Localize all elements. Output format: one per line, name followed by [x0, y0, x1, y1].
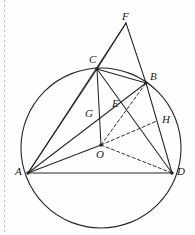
segment-CD [97, 69, 172, 173]
point-label-e: E [112, 98, 119, 109]
vertex-dot-c [95, 67, 98, 70]
point-label-f: F [122, 11, 129, 22]
vertex-dot-o [99, 143, 102, 146]
segment-AO [28, 145, 101, 173]
segment-CF [97, 23, 126, 69]
point-label-d: D [177, 166, 185, 177]
segment-CO [97, 69, 101, 145]
vertex-dot-b [144, 81, 147, 84]
point-label-c: C [89, 54, 96, 65]
vertex-dot-a [26, 171, 29, 174]
geometry-figure: FCBGEHOAD [0, 0, 195, 235]
segment-BF [126, 23, 146, 83]
segment-BD [146, 83, 172, 173]
point-label-g: G [85, 108, 93, 119]
vertex-dot-d [170, 171, 173, 174]
segment-AB [28, 83, 146, 173]
point-label-a: A [15, 166, 22, 177]
point-label-o: O [96, 149, 104, 160]
point-label-b: B [150, 71, 157, 82]
point-label-h: H [162, 114, 170, 125]
